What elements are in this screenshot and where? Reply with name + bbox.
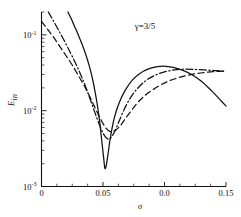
- x-tick-label: 0.05: [96, 188, 111, 198]
- x-tick-label: 0: [39, 188, 43, 198]
- gamma-annotation: γ=3/5: [134, 21, 156, 31]
- y-tick-label: 10-1: [23, 30, 37, 40]
- y-axis-title-text: Ein: [6, 94, 19, 107]
- x-axis-title: σ: [138, 201, 143, 211]
- y-tick-label: 10-3: [23, 181, 37, 191]
- data-curve-dashed: [42, 21, 227, 131]
- x-tick-label: 0.15: [219, 188, 234, 198]
- data-curve-solid: [68, 12, 226, 169]
- figure-container: 00.050.00.15 10-310-210-1 σ Ein γ=3/5: [0, 0, 241, 217]
- y-tick-label: 10-2: [23, 105, 37, 115]
- y-axis-title: Ein: [6, 94, 19, 107]
- x-tick-label: 0.0: [159, 188, 170, 198]
- x-axis-tick-labels: 00.050.00.15: [39, 188, 233, 198]
- data-curves: [42, 12, 227, 169]
- y-axis-tick-labels: 10-310-210-1: [23, 30, 37, 192]
- axes: [42, 12, 227, 187]
- chart-plot: 00.050.00.15 10-310-210-1 σ Ein γ=3/5: [0, 0, 241, 217]
